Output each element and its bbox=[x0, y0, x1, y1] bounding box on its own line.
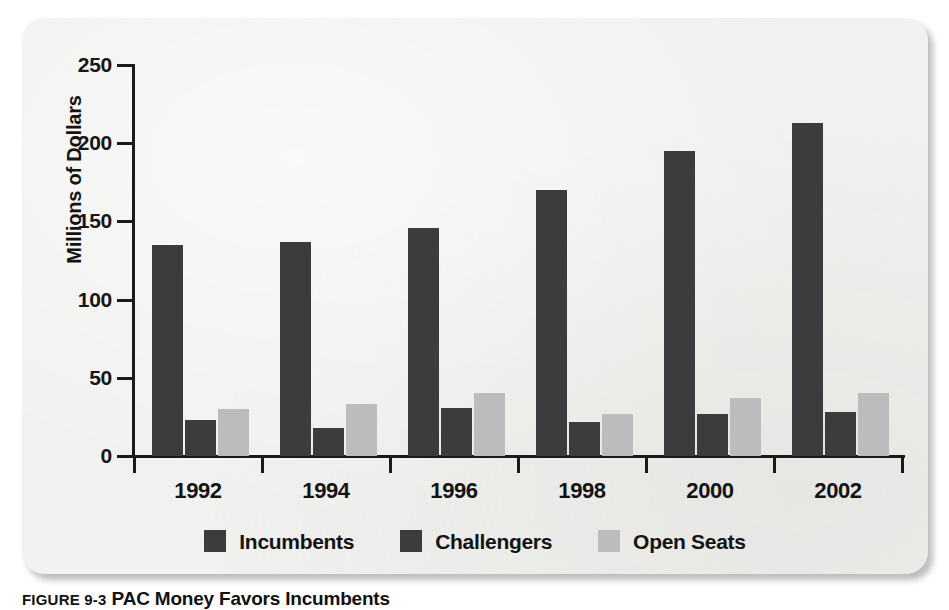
x-axis-label-1996: 1996 bbox=[390, 480, 518, 502]
legend-label: Incumbents bbox=[239, 531, 354, 552]
bar-incumbents-2002 bbox=[792, 123, 823, 456]
bar-challengers-1994 bbox=[313, 428, 344, 456]
bar-incumbents-2000 bbox=[664, 151, 695, 456]
y-axis-tick bbox=[117, 220, 133, 223]
legend-item-challengers: Challengers bbox=[400, 530, 552, 552]
legend-label: Challengers bbox=[435, 531, 552, 552]
y-axis-tick-label: 200 bbox=[26, 132, 112, 153]
bar-challengers-1992 bbox=[185, 420, 216, 456]
bar-challengers-1998 bbox=[569, 422, 600, 456]
x-axis-tick bbox=[133, 458, 136, 473]
bar-group bbox=[518, 65, 646, 456]
bar-incumbents-1998 bbox=[536, 190, 567, 456]
bar-incumbents-1994 bbox=[280, 242, 311, 456]
x-axis-tick bbox=[261, 458, 264, 473]
y-axis-title: Millions of Dollars bbox=[63, 60, 86, 300]
x-axis-label-1992: 1992 bbox=[134, 480, 262, 502]
x-axis-label-2002: 2002 bbox=[774, 480, 902, 502]
bar-challengers-2002 bbox=[825, 412, 856, 456]
y-axis-tick-label: 100 bbox=[26, 289, 112, 310]
chart-legend: IncumbentsChallengersOpen Seats bbox=[22, 530, 928, 552]
legend-label: Open Seats bbox=[633, 531, 746, 552]
y-axis-tick-label: 0 bbox=[26, 445, 112, 466]
legend-item-open-seats: Open Seats bbox=[598, 530, 746, 552]
bar-open-seats-2002 bbox=[858, 393, 889, 456]
x-axis-label-1998: 1998 bbox=[518, 480, 646, 502]
x-axis-label-2000: 2000 bbox=[646, 480, 774, 502]
bar-group bbox=[646, 65, 774, 456]
y-axis-tick bbox=[117, 377, 133, 380]
figure-caption-title: PAC Money Favors Incumbents bbox=[112, 588, 390, 609]
bar-group bbox=[774, 65, 902, 456]
x-axis-label-1994: 1994 bbox=[262, 480, 390, 502]
legend-swatch-icon bbox=[204, 530, 226, 552]
bar-open-seats-1996 bbox=[474, 393, 505, 456]
bar-challengers-2000 bbox=[697, 414, 728, 456]
x-axis-tick bbox=[773, 458, 776, 473]
legend-swatch-icon bbox=[598, 530, 620, 552]
bar-group bbox=[390, 65, 518, 456]
y-axis-tick bbox=[117, 142, 133, 145]
bar-open-seats-2000 bbox=[730, 398, 761, 456]
bar-open-seats-1994 bbox=[346, 404, 377, 456]
figure-caption-number: FIGURE 9-3 bbox=[22, 591, 107, 608]
bar-incumbents-1992 bbox=[152, 245, 183, 456]
bar-open-seats-1998 bbox=[602, 414, 633, 456]
x-axis-tick bbox=[645, 458, 648, 473]
x-axis-tick bbox=[389, 458, 392, 473]
x-axis-tick bbox=[901, 458, 904, 473]
bar-open-seats-1992 bbox=[218, 409, 249, 456]
plot-area bbox=[134, 65, 902, 456]
legend-swatch-icon bbox=[400, 530, 422, 552]
bar-group bbox=[262, 65, 390, 456]
legend-item-incumbents: Incumbents bbox=[204, 530, 354, 552]
y-axis-tick bbox=[117, 455, 133, 458]
y-axis-tick bbox=[117, 64, 133, 67]
bar-challengers-1996 bbox=[441, 408, 472, 456]
y-axis-tick-label: 150 bbox=[26, 210, 112, 231]
y-axis-tick-label: 50 bbox=[26, 367, 112, 388]
y-axis-tick bbox=[117, 299, 133, 302]
bar-incumbents-1996 bbox=[408, 228, 439, 456]
y-axis-tick-label: 250 bbox=[26, 54, 112, 75]
bar-group bbox=[134, 65, 262, 456]
chart-panel: Millions of Dollars 050100150200250 1992… bbox=[22, 18, 928, 574]
figure-caption: FIGURE 9-3 PAC Money Favors Incumbents bbox=[22, 588, 922, 610]
x-axis-tick bbox=[517, 458, 520, 473]
